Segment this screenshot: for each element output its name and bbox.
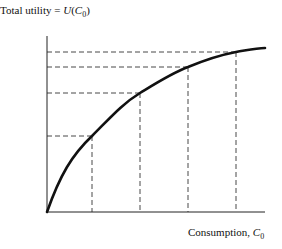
x-axis-label-text: Consumption, bbox=[188, 226, 253, 238]
reference-lines bbox=[47, 52, 236, 212]
x-axis-label-sub: 0 bbox=[260, 232, 264, 241]
y-axis-label-func: U bbox=[63, 4, 71, 16]
y-axis-label-text: Total utility = bbox=[0, 4, 63, 16]
x-axis-label: Consumption, C0 bbox=[188, 226, 264, 241]
y-axis-label: Total utility = U(C0) bbox=[0, 4, 90, 19]
utility-chart bbox=[0, 0, 282, 249]
utility-curve bbox=[47, 48, 265, 212]
y-axis-label-sub: 0 bbox=[82, 10, 86, 19]
